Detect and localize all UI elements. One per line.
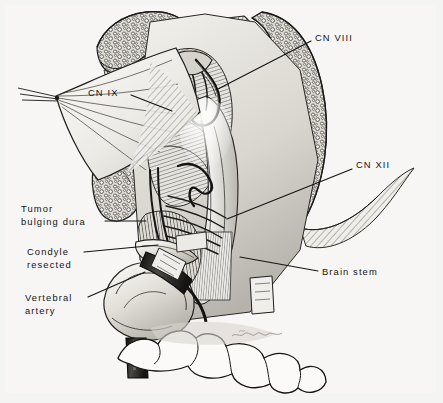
label-tumor-bulging-dura: Tumor bulging dura [21,203,86,228]
label-condyle-resected: Condyle resected [27,246,72,271]
label-cn-xii: CN XII [356,159,390,172]
label-vertebral-artery: Vertebral artery [25,292,72,317]
label-cn-ix: CN IX [88,87,119,100]
label-cn-viii: CN VIII [315,32,353,45]
illustration-page: CN VIIICN IXCN XIITumor bulging duraCond… [0,0,443,403]
label-layer: CN VIIICN IXCN XIITumor bulging duraCond… [0,0,443,403]
label-brain-stem: Brain stem [322,266,378,279]
